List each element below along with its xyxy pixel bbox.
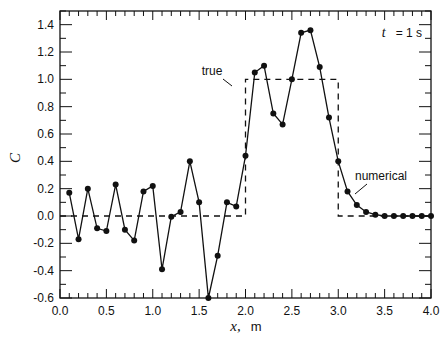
- data-point-marker: [261, 63, 267, 69]
- data-point-marker: [113, 182, 119, 188]
- data-point-marker: [391, 213, 397, 219]
- data-point-marker: [140, 188, 146, 194]
- true-label-leader: [223, 79, 232, 86]
- data-point-marker: [270, 111, 276, 117]
- y-tick-label: 1.0: [37, 72, 54, 86]
- data-point-marker: [243, 153, 249, 159]
- data-point-marker: [289, 76, 295, 82]
- x-axis-variable: x,: [229, 318, 240, 334]
- data-point-marker: [94, 225, 100, 231]
- data-point-marker: [150, 183, 156, 189]
- time-value: = 1 s: [396, 26, 422, 40]
- data-point-marker: [178, 209, 184, 215]
- data-point-marker: [428, 213, 434, 219]
- y-tick-label: -0.4: [33, 264, 54, 278]
- time-annotation: t = 1 s: [382, 23, 422, 40]
- y-tick-label: 1.4: [37, 18, 54, 32]
- x-tick-label: 1.5: [191, 304, 208, 318]
- data-point-marker: [298, 30, 304, 36]
- y-tick-label: 0.2: [37, 182, 54, 196]
- numerical-series-line: [69, 30, 431, 298]
- y-tick-label: 0.0: [37, 209, 54, 223]
- y-tick-label: 0.8: [37, 100, 54, 114]
- x-tick-label: 0.0: [52, 304, 69, 318]
- true-series-label: true: [202, 64, 223, 78]
- data-point-marker: [131, 238, 137, 244]
- data-point-marker: [196, 199, 202, 205]
- x-tick-label: 4.0: [423, 304, 440, 318]
- y-tick-label: 0.6: [37, 127, 54, 141]
- y-tick-label: 1.2: [37, 45, 54, 59]
- numerical-series-label: numerical: [355, 169, 407, 183]
- data-point-marker: [400, 213, 406, 219]
- data-point-marker: [326, 115, 332, 121]
- data-point-marker: [76, 236, 82, 242]
- data-point-marker: [168, 214, 174, 220]
- data-point-marker: [354, 202, 360, 208]
- chart-figure: 0.00.51.01.52.02.53.03.54.0-0.6-0.4-0.20…: [0, 0, 445, 337]
- data-point-marker: [159, 266, 165, 272]
- y-tick-label: 0.4: [37, 154, 54, 168]
- x-tick-label: 0.5: [98, 304, 115, 318]
- data-point-marker: [252, 70, 258, 76]
- data-point-marker: [233, 203, 239, 209]
- data-point-marker: [363, 209, 369, 215]
- data-point-marker: [215, 253, 221, 259]
- y-axis-label: C: [7, 152, 23, 163]
- data-point-marker: [122, 227, 128, 233]
- data-point-marker: [382, 213, 388, 219]
- x-axis-label: x, m: [229, 317, 261, 334]
- numerical-label-leader: [355, 184, 367, 194]
- data-point-marker: [317, 64, 323, 70]
- data-point-marker: [205, 295, 211, 301]
- data-point-marker: [372, 212, 378, 218]
- data-point-marker: [85, 186, 91, 192]
- data-point-marker: [103, 228, 109, 234]
- x-tick-label: 3.0: [330, 304, 347, 318]
- x-tick-label: 1.0: [144, 304, 161, 318]
- tick-labels: 0.00.51.01.52.02.53.03.54.0-0.6-0.4-0.20…: [33, 18, 439, 318]
- data-point-marker: [187, 158, 193, 164]
- y-tick-label: -0.2: [33, 236, 54, 250]
- data-point-marker: [345, 188, 351, 194]
- y-tick-label: -0.6: [33, 291, 54, 305]
- x-tick-label: 2.0: [237, 304, 254, 318]
- data-point-marker: [224, 199, 230, 205]
- data-point-marker: [66, 190, 72, 196]
- x-tick-label: 3.5: [376, 304, 393, 318]
- data-point-marker: [409, 213, 415, 219]
- true-series-line: [60, 79, 431, 216]
- x-tick-label: 2.5: [284, 304, 301, 318]
- time-variable: t: [382, 25, 387, 40]
- data-point-marker: [280, 121, 286, 127]
- data-point-marker: [419, 213, 425, 219]
- data-point-marker: [307, 27, 313, 33]
- x-axis-unit: m: [251, 319, 262, 334]
- series: [60, 27, 434, 301]
- data-point-marker: [335, 158, 341, 164]
